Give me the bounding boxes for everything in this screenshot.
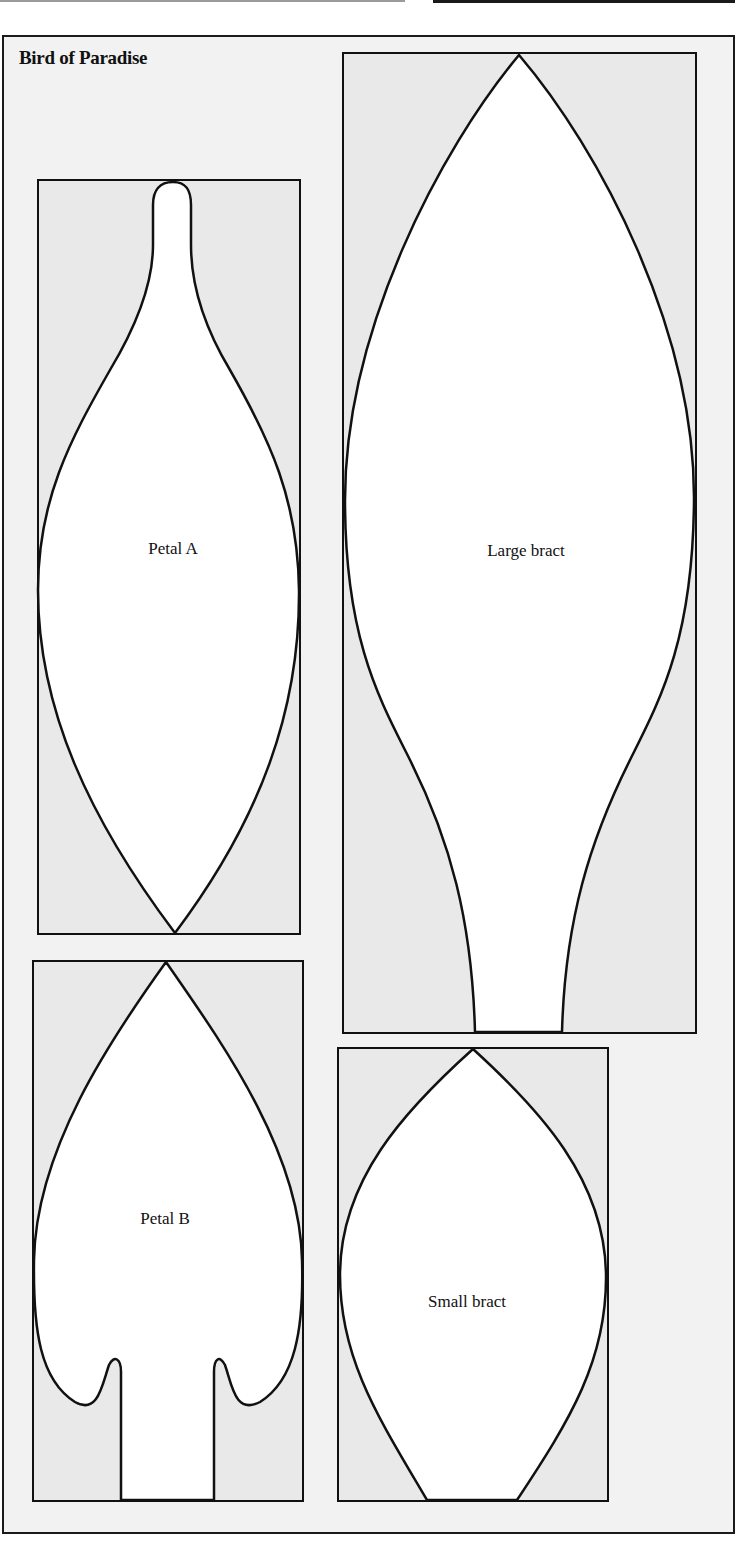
small-bract-template — [338, 1048, 608, 1501]
large-bract-label: Large bract — [487, 541, 565, 561]
pattern-templates — [0, 0, 735, 1544]
petal-b-label: Petal B — [140, 1209, 190, 1229]
small-bract-label: Small bract — [428, 1292, 506, 1312]
petal-b-template — [33, 961, 303, 1501]
petal-a-label: Petal A — [148, 539, 198, 559]
